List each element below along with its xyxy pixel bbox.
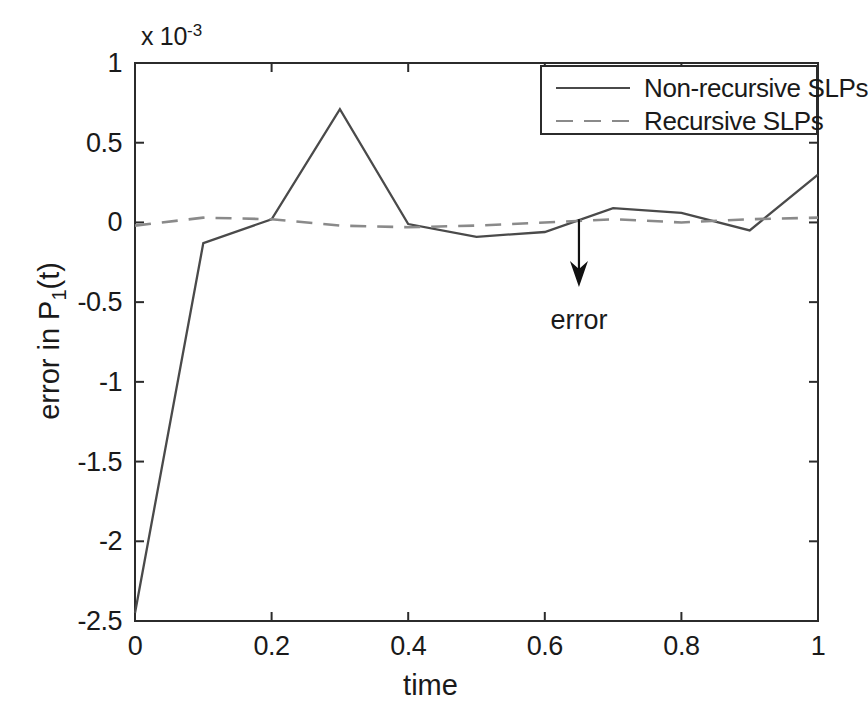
axes-frame bbox=[135, 63, 818, 621]
legend-entry[interactable]: Recursive SLPs bbox=[542, 104, 816, 138]
legend-label: Non-recursive SLPs bbox=[644, 73, 868, 104]
axes-box bbox=[135, 63, 818, 621]
legend-solid-line-icon bbox=[556, 78, 630, 98]
legend-dashed-line-icon bbox=[556, 111, 630, 131]
legend-box: Non-recursive SLPsRecursive SLPs bbox=[540, 65, 818, 135]
legend-entry[interactable]: Non-recursive SLPs bbox=[542, 71, 816, 105]
axis-tick-marks bbox=[135, 63, 818, 621]
series-line-1 bbox=[135, 109, 818, 613]
annotation-label-error: error bbox=[550, 305, 607, 336]
annotation-arrow bbox=[570, 219, 588, 287]
legend-label: Recursive SLPs bbox=[644, 106, 823, 137]
data-series-group bbox=[135, 109, 818, 613]
